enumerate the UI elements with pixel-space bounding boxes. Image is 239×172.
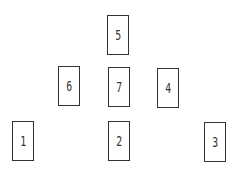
card-number: 6 (66, 78, 72, 94)
card-number: 2 (116, 133, 122, 149)
card-number: 1 (20, 133, 26, 149)
card-number: 4 (165, 80, 171, 96)
card-position-7: 7 (108, 67, 130, 107)
card-number: 3 (212, 134, 218, 150)
card-position-1: 1 (12, 121, 34, 161)
card-position-2: 2 (108, 121, 130, 161)
card-position-6: 6 (58, 66, 80, 106)
card-number: 7 (116, 79, 122, 95)
card-position-3: 3 (204, 122, 226, 162)
card-number: 5 (115, 27, 121, 43)
card-position-5: 5 (107, 15, 129, 55)
card-position-4: 4 (157, 68, 179, 108)
